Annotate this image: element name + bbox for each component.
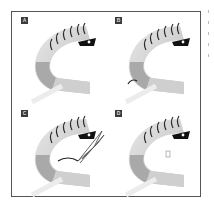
eyelid-illustration (12, 105, 106, 197)
eyelid-illustration (106, 12, 200, 104)
panel-label: A (21, 17, 28, 24)
eyelid-illustration (106, 105, 200, 197)
cropped-caption-marks (206, 10, 214, 65)
panel-label: D (115, 110, 122, 117)
suture-icon (58, 158, 78, 161)
panel-label: C (21, 110, 28, 117)
eyelid-illustration (12, 12, 106, 104)
panel-a: A (12, 12, 106, 104)
panel-label: B (115, 17, 122, 24)
panel-d: D (106, 105, 200, 197)
panel-b: B (106, 12, 200, 104)
marker-icon (166, 151, 170, 157)
panel-c: C (12, 105, 106, 197)
